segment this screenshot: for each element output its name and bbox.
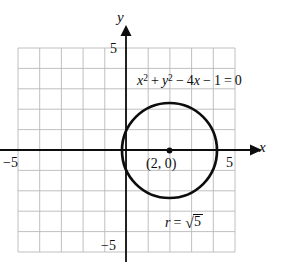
equation-minus-operator-1: − [173, 74, 187, 88]
coordinate-plane-svg [0, 0, 288, 262]
equation-plus-operator: + [148, 74, 162, 88]
equation-coefficient: 4 [187, 74, 194, 88]
y-axis-label: y [117, 10, 124, 25]
equation-equals-sign: = [221, 74, 235, 88]
radius-label: r = √ 5 [165, 214, 203, 230]
radicand: 5 [193, 214, 203, 230]
y-axis-arrowhead [121, 25, 132, 36]
circle-graph-figure: y x 5 −5 −5 5 (2, 0) x2 + y2 − 4x − 1 = … [0, 0, 288, 262]
radius-equals-sign: = [170, 216, 184, 230]
x-axis-label: x [259, 140, 266, 155]
equation-right-hand-side: 0 [235, 74, 242, 88]
center-point-label: (2, 0) [146, 157, 176, 171]
y-axis-tick-label-minus-5: −5 [101, 239, 116, 253]
equation-minus-operator-2: − [200, 74, 214, 88]
center-point-marker [167, 148, 173, 154]
x-axis-tick-label-5: 5 [226, 156, 233, 170]
equation-constant: 1 [214, 74, 221, 88]
square-root-expression: √ 5 [184, 214, 203, 230]
circle-equation-label: x2 + y2 − 4x − 1 = 0 [137, 74, 242, 88]
y-axis-tick-label-5: 5 [110, 42, 117, 56]
x-axis-tick-label-minus-5: −5 [3, 156, 18, 170]
